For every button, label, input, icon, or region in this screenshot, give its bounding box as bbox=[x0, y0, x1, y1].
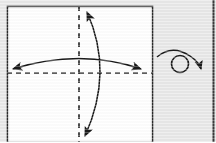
origami-diagram-figure bbox=[0, 0, 216, 142]
square-paper-sheet bbox=[8, 7, 153, 143]
diagram-canvas bbox=[0, 0, 216, 142]
